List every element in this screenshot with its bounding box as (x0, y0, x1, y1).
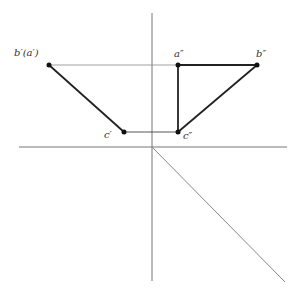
label-a-double-prime: a″ (174, 48, 184, 59)
label-c-prime: c′ (104, 129, 113, 140)
label-c-double-prime: c″ (183, 130, 193, 141)
point-b-double-prime (255, 63, 260, 68)
point-c-double-prime (176, 130, 181, 135)
diagonal-45-line (152, 147, 285, 282)
point-c-prime (122, 130, 127, 135)
projection-diagram: b′(a′) c′ a″ b″ c″ (0, 0, 301, 294)
point-a-double-prime (176, 63, 181, 68)
label-b-double-prime: b″ (256, 48, 266, 59)
label-b-prime-a-prime: b′(a′) (14, 47, 39, 58)
point-b-prime-a-prime (47, 63, 52, 68)
edge-b-prime-c-prime (49, 65, 124, 132)
edge-b-dp-c-dp (178, 65, 257, 132)
